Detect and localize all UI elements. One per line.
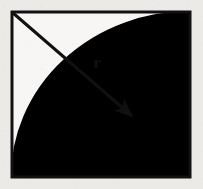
radius-label: r [93,53,101,72]
figure-canvas: r [0,0,203,189]
geometry-figure: r [0,0,203,189]
